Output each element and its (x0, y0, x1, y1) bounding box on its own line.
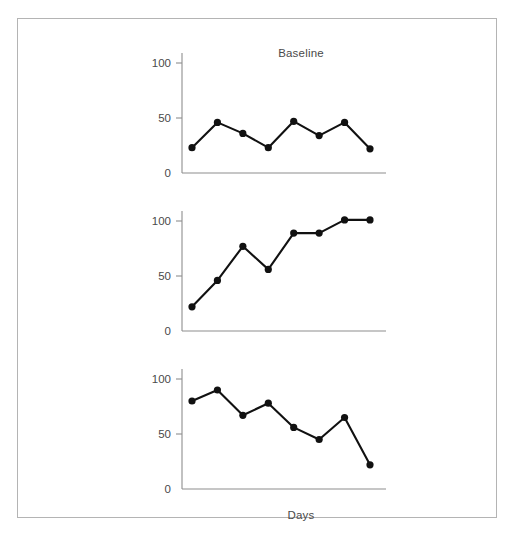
panel-plot-area-bottom-panel: 050100 (18, 361, 488, 491)
data-point (239, 412, 246, 419)
y-tick-label-100: 100 (152, 215, 171, 227)
y-tick-label-100: 100 (152, 57, 171, 69)
data-point (214, 119, 221, 126)
y-tick-label-50: 50 (158, 270, 171, 282)
data-point (290, 230, 297, 237)
data-point (188, 303, 195, 310)
data-point (316, 436, 323, 443)
data-point (341, 216, 348, 223)
data-point (341, 414, 348, 421)
data-point (366, 461, 373, 468)
y-tick-label-0: 0 (165, 325, 171, 337)
figure-frame: Baseline Percent Intervals of Inappropri… (17, 18, 497, 518)
data-point (366, 145, 373, 152)
chart-panel-top: 050100 (18, 45, 488, 175)
data-point (265, 266, 272, 273)
y-tick-label-50: 50 (158, 112, 171, 124)
chart-panel-bottom: 050100 (18, 361, 488, 491)
data-series-line (192, 220, 370, 307)
data-point (366, 216, 373, 223)
data-point (290, 118, 297, 125)
x-axis-label: Days (199, 509, 403, 521)
data-point (188, 397, 195, 404)
data-point (341, 119, 348, 126)
y-tick-label-0: 0 (165, 167, 171, 179)
data-point (239, 130, 246, 137)
data-point (265, 144, 272, 151)
panel-plot-area-middle-panel: 050100 (18, 203, 488, 333)
data-point (214, 386, 221, 393)
data-point (239, 243, 246, 250)
y-tick-label-0: 0 (165, 483, 171, 495)
data-point (265, 400, 272, 407)
data-point (188, 144, 195, 151)
chart-panel-middle: 050100 (18, 203, 488, 333)
data-point (290, 424, 297, 431)
data-series-line (192, 390, 370, 465)
y-tick-label-50: 50 (158, 428, 171, 440)
data-point (316, 230, 323, 237)
data-point (316, 132, 323, 139)
data-point (214, 277, 221, 284)
y-tick-label-100: 100 (152, 373, 171, 385)
panel-plot-area-top-panel: 050100 (18, 45, 488, 175)
